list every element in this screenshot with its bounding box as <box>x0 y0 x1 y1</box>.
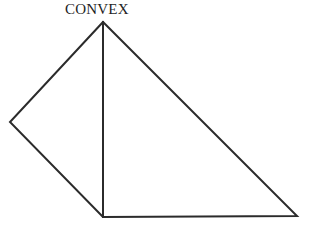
figure-label: CONVEX <box>65 2 129 17</box>
figure-canvas: CONVEX <box>0 0 310 231</box>
polygon-outline <box>10 22 297 217</box>
convex-polygon-diagram <box>0 0 310 231</box>
